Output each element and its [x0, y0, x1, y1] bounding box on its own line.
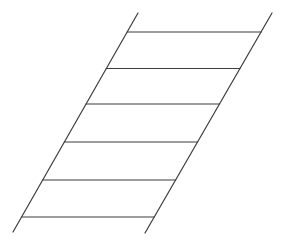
left-rail	[13, 13, 138, 232]
right-rail	[145, 13, 272, 233]
ladder-figure	[0, 0, 285, 241]
ladder-diagram	[0, 0, 285, 241]
